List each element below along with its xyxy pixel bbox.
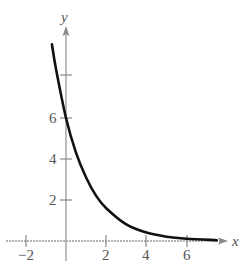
x-tick-label: 4 (142, 247, 150, 263)
y-tick-label: 2 (49, 192, 57, 208)
x-tick-label: 2 (102, 247, 110, 263)
x-tick-label: 6 (183, 247, 191, 263)
x-axis (6, 235, 228, 247)
data-curve (52, 44, 217, 240)
y-axis (60, 26, 72, 261)
exponential-decay-chart: x y −2 2 4 6 6 4 2 (0, 0, 250, 272)
x-tick-label: −2 (18, 247, 34, 263)
y-tick-label: 6 (49, 110, 57, 126)
x-axis-label: x (231, 233, 239, 249)
y-tick-label: 4 (49, 151, 57, 167)
y-axis-label: y (59, 9, 68, 25)
